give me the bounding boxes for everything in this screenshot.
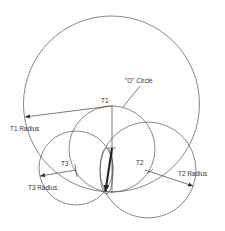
t1-label: T1 <box>101 97 109 104</box>
t1-circle <box>24 16 200 192</box>
t3-radius-label: T3 Radius <box>28 184 57 191</box>
t2-label: T2 <box>136 159 144 166</box>
o-circle-label: "O" Circle <box>125 77 153 84</box>
t1-radius-arrow <box>25 106 111 117</box>
t3-radius-arrow <box>40 170 76 176</box>
o-circle-leader <box>123 86 140 107</box>
t3-center-tick <box>75 164 77 177</box>
tangent-circles-diagram: "O" Circle T1 T1 Radius T2 T2 Radius T3 … <box>0 0 225 231</box>
t3-label: T3 <box>61 160 69 167</box>
t2-radius-label: T2 Radius <box>178 170 207 177</box>
t3-circle <box>39 131 113 205</box>
t1-radius-label: T1 Radius <box>10 125 39 132</box>
